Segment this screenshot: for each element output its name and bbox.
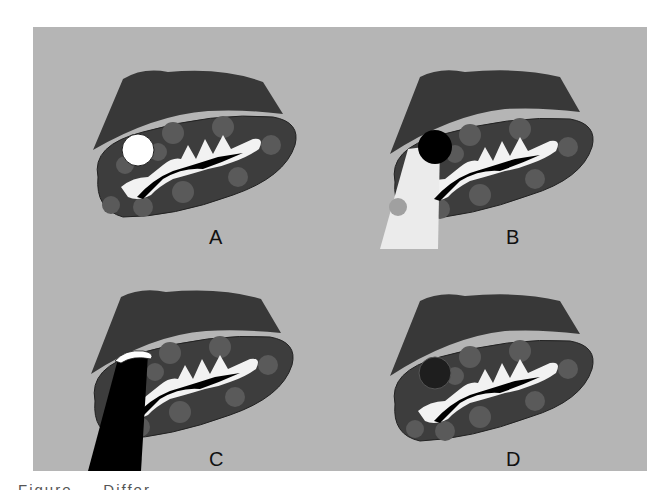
panel-d: D — [340, 249, 647, 471]
black-nodule — [418, 130, 452, 164]
panel-label-d: D — [506, 448, 520, 471]
panel-label-a: A — [209, 226, 222, 249]
shadow-spot — [389, 198, 407, 216]
figure-caption: Figure ... Differ... — [18, 483, 658, 490]
panel-a: A — [33, 27, 340, 249]
dark-nodule — [419, 357, 451, 389]
kidney-diagram-d — [340, 249, 647, 471]
kidney-diagram-b — [340, 27, 647, 249]
kidney-diagram-c — [33, 249, 340, 471]
panel-b: B — [340, 27, 647, 249]
white-nodule — [122, 134, 154, 166]
kidney-diagram-a — [33, 27, 340, 249]
panel-label-c: C — [209, 448, 223, 471]
panel-label-b: B — [506, 226, 519, 249]
panel-c: C — [33, 249, 340, 471]
figure-frame: A B — [33, 27, 647, 471]
